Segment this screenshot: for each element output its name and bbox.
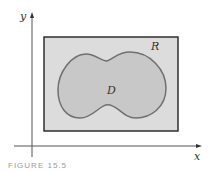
y-axis-label: y bbox=[19, 10, 27, 23]
x-axis-label: x bbox=[194, 150, 201, 163]
diagram-canvas: y x R D bbox=[0, 0, 210, 171]
x-axis-arrow-icon bbox=[196, 144, 202, 148]
region-label: D bbox=[106, 84, 116, 97]
figure-caption: FIGURE 15.5 bbox=[8, 161, 67, 170]
rectangle-label: R bbox=[150, 40, 159, 53]
y-axis-arrow-icon bbox=[30, 12, 34, 18]
